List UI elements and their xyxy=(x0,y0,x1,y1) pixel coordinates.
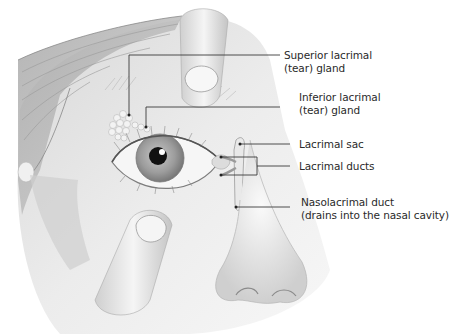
label-line: Superior lacrimal xyxy=(284,49,372,62)
label-line: Lacrimal ducts xyxy=(299,160,375,173)
label-nasolacrimal-duct: Nasolacrimal duct (drains into the nasal… xyxy=(301,196,449,221)
label-superior-lacrimal-gland: Superior lacrimal (tear) gland xyxy=(284,49,372,74)
label-line: (tear) gland xyxy=(284,62,372,75)
label-lacrimal-ducts: Lacrimal ducts xyxy=(299,160,375,173)
label-line: Lacrimal sac xyxy=(299,138,364,151)
label-lacrimal-sac: Lacrimal sac xyxy=(299,138,364,151)
label-line: Nasolacrimal duct xyxy=(301,196,449,209)
label-line: (tear) gland xyxy=(299,104,380,117)
label-line: (drains into the nasal cavity) xyxy=(301,209,449,222)
label-line: Inferior lacrimal xyxy=(299,91,380,104)
label-inferior-lacrimal-gland: Inferior lacrimal (tear) gland xyxy=(299,91,380,116)
